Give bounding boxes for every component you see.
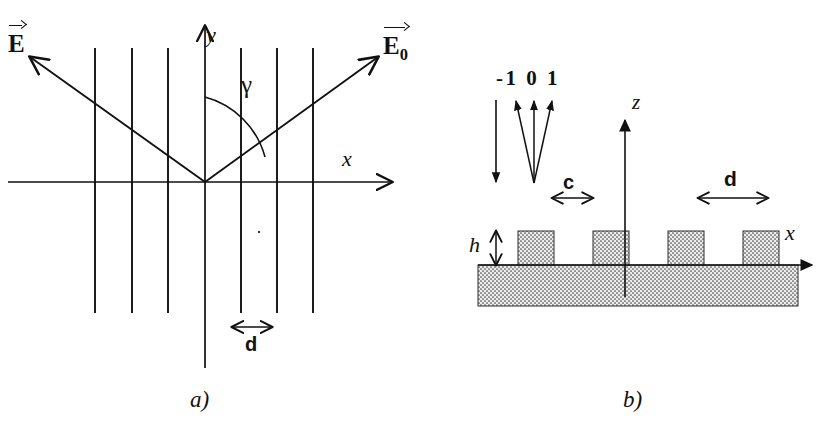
vector-arrow-icon xyxy=(8,20,25,29)
figure-container: E E0 y x γ d a) -1 0 1 z x c d h b) xyxy=(0,0,823,425)
reflected-ray xyxy=(30,57,205,182)
panel-b-graphics xyxy=(478,100,812,306)
order-plus-1-ray xyxy=(534,101,552,183)
grating-bars-group xyxy=(518,231,779,265)
grating-bar xyxy=(743,231,779,265)
diagram-canvas xyxy=(0,0,823,425)
panel-a-graphics xyxy=(8,26,392,368)
angle-arc xyxy=(205,97,265,157)
panel-a-x-axis-label: x xyxy=(342,148,352,170)
grating-bar xyxy=(518,231,554,265)
scan-speck xyxy=(258,231,260,233)
groove-width-label: c xyxy=(563,172,574,192)
incident-ray xyxy=(205,57,378,182)
incident-vector-label: E0 xyxy=(383,22,408,65)
height-label: h xyxy=(469,234,480,256)
panel-a-y-axis-label: y xyxy=(206,24,216,46)
incident-vector-subscript: 0 xyxy=(400,45,408,64)
reflected-vector-label: E xyxy=(8,20,25,58)
panel-a-period-label: d xyxy=(245,334,257,354)
incident-vector-text: E0 xyxy=(383,32,408,65)
diffraction-orders-group xyxy=(516,101,552,183)
grating-bar xyxy=(593,231,629,265)
grating-bar xyxy=(668,231,704,265)
incident-vector-base: E xyxy=(383,32,400,59)
order-minus-1-ray xyxy=(516,101,534,183)
vector-arrow-icon xyxy=(383,22,408,31)
reflected-vector-text: E xyxy=(8,30,25,58)
angle-gamma-label: γ xyxy=(241,72,252,97)
substrate xyxy=(478,265,798,306)
panel-b-period-label: d xyxy=(724,168,737,189)
diffraction-orders-label: -1 0 1 xyxy=(496,68,560,89)
panel-b-x-axis-label: x xyxy=(785,222,795,244)
panel-b-z-axis-label: z xyxy=(632,92,640,113)
panel-b-caption: b) xyxy=(623,388,642,411)
panel-a-caption: a) xyxy=(190,388,209,411)
